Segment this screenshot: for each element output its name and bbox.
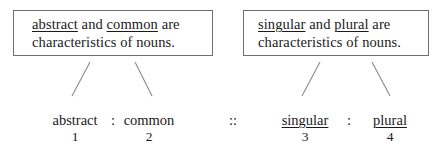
left-branch-down-left-line: [72, 62, 90, 96]
right-premise-line-2: characteristics of nouns.: [258, 33, 401, 51]
analogy-number-2: 2: [146, 128, 153, 146]
ratio-separator: ::: [229, 110, 237, 130]
right-premise-line-1: singular and plural are: [258, 15, 401, 33]
analogy-terms-row: abstract : common :: singular : plural: [0, 110, 448, 130]
left-conjunction: and: [78, 16, 107, 32]
right-term-b: plural: [334, 16, 368, 32]
analogy-term-3: singular: [282, 110, 329, 130]
left-premise-box: abstract and common are characteristics …: [13, 10, 213, 56]
left-premise-line-2: characteristics of nouns.: [32, 33, 180, 51]
right-term-a: singular: [258, 16, 306, 32]
analogy-number-1: 1: [72, 128, 79, 146]
right-conjunction: and: [306, 16, 335, 32]
right-premise-box: singular and plural are characteristics …: [243, 10, 429, 56]
pair-separator-right: :: [347, 110, 351, 130]
analogy-numbers-row: 1 2 3 4: [0, 128, 448, 146]
analogy-term-2: common: [124, 110, 175, 130]
analogy-number-4: 4: [387, 128, 394, 146]
left-premise-text: abstract and common are characteristics …: [32, 15, 180, 51]
left-premise-line-1: abstract and common are: [32, 15, 180, 33]
pair-separator-left: :: [111, 110, 115, 130]
left-term-a: abstract: [32, 16, 78, 32]
right-line-1-tail: are: [369, 16, 391, 32]
left-term-b: common: [107, 16, 158, 32]
right-branch-down-left-line: [302, 62, 320, 96]
left-line-1-tail: are: [158, 16, 180, 32]
analogy-number-3: 3: [302, 128, 309, 146]
analogy-term-1: abstract: [52, 110, 97, 130]
left-branch-down-right-line: [135, 62, 152, 96]
analogy-figure: abstract and common are characteristics …: [0, 0, 448, 153]
right-branch-down-right-line: [372, 62, 390, 96]
right-premise-text: singular and plural are characteristics …: [258, 15, 401, 51]
analogy-term-4: plural: [373, 110, 407, 130]
